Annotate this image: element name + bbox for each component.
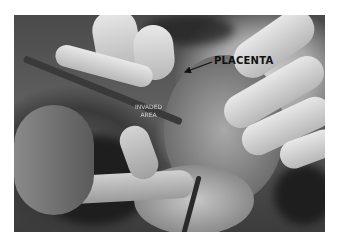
placenta-label: PLACENTA (214, 55, 273, 66)
invaded-label-line2: AREA (135, 111, 162, 119)
invaded-area-label: INVADED AREA (135, 103, 162, 119)
invaded-label-line1: INVADED (135, 103, 162, 111)
surgical-photo (14, 15, 325, 232)
shadow-region (274, 165, 325, 225)
lower-hand-finger (14, 105, 94, 215)
